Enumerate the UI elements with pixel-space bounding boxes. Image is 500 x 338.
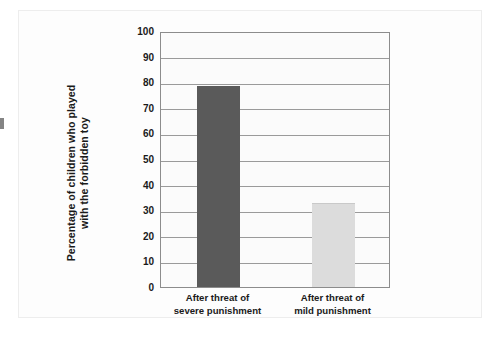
y-axis-tick-label: 50	[120, 155, 154, 165]
y-axis-tick-label: 100	[120, 27, 154, 37]
y-axis-tick-label: 80	[120, 78, 154, 88]
gridline	[161, 84, 389, 85]
gridline	[161, 58, 389, 59]
y-axis-title-line-1: Percentage of children who played	[65, 43, 78, 303]
y-axis-title: Percentage of children who played with t…	[65, 43, 91, 303]
x-axis-category-label-line: After threat of	[258, 292, 408, 305]
gridline	[161, 135, 389, 136]
gridline	[161, 186, 389, 187]
y-axis-tick-label: 10	[120, 257, 154, 267]
y-axis-tick-label: 30	[120, 206, 154, 216]
y-axis-title-line-2: with the forbidden toy	[78, 43, 91, 303]
bar-chart: Percentage of children who played with t…	[0, 0, 500, 338]
y-axis-tick-label: 60	[120, 129, 154, 139]
x-axis-category-label: After threat ofmild punishment	[258, 292, 408, 317]
gridline	[161, 109, 389, 110]
x-axis-category-label-line: mild punishment	[258, 305, 408, 318]
y-axis-tick-label: 40	[120, 181, 154, 191]
bar	[197, 86, 240, 287]
plot-area	[160, 32, 390, 288]
y-axis-tick-label: 70	[120, 104, 154, 114]
gridline	[161, 161, 389, 162]
y-axis-tick-label: 20	[120, 232, 154, 242]
y-axis-tick-label: 90	[120, 53, 154, 63]
bar	[312, 203, 355, 287]
